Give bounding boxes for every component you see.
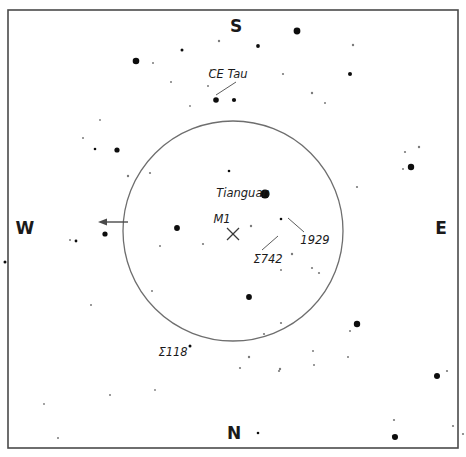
star-marker bbox=[154, 389, 156, 391]
m1-target-marker bbox=[227, 228, 239, 240]
star-marker bbox=[311, 92, 313, 94]
star-marker bbox=[189, 345, 192, 348]
star-marker bbox=[189, 105, 191, 107]
star-marker bbox=[133, 58, 140, 65]
star-marker bbox=[109, 394, 111, 396]
label-ce-tau: CE Tau bbox=[208, 67, 247, 81]
sky-canvas: CE Tau Tianguan M1 Σ742 1929 Σ118 S W E … bbox=[0, 0, 466, 457]
star-marker bbox=[278, 370, 280, 372]
leader-line bbox=[262, 236, 278, 250]
star-marker bbox=[218, 40, 220, 42]
star-marker bbox=[69, 239, 71, 241]
star-marker bbox=[159, 245, 161, 247]
star-marker bbox=[232, 98, 236, 102]
cardinal-label-west: W bbox=[16, 218, 35, 238]
star-marker bbox=[280, 218, 283, 221]
star-marker bbox=[239, 367, 241, 369]
label-sigma-742: Σ742 bbox=[253, 252, 282, 266]
star-marker bbox=[318, 272, 320, 274]
star-marker bbox=[246, 294, 252, 300]
star-marker bbox=[151, 290, 153, 292]
star-marker bbox=[452, 425, 454, 427]
star-marker bbox=[393, 419, 395, 421]
star-marker bbox=[94, 148, 97, 151]
leader-line bbox=[216, 82, 236, 95]
star-marker bbox=[349, 330, 351, 332]
star-chart: CE Tau Tianguan M1 Σ742 1929 Σ118 S W E … bbox=[0, 0, 466, 457]
star-marker bbox=[408, 164, 414, 170]
star-marker bbox=[280, 322, 282, 324]
star-marker bbox=[352, 44, 354, 46]
star-marker bbox=[181, 49, 184, 52]
star-marker bbox=[114, 147, 119, 152]
star-marker bbox=[402, 168, 404, 170]
star-marker bbox=[152, 62, 154, 64]
star-marker bbox=[82, 137, 84, 139]
star-marker bbox=[311, 267, 313, 269]
star-marker bbox=[354, 321, 360, 327]
leader-line bbox=[288, 218, 304, 232]
star-marker bbox=[280, 269, 282, 271]
star-marker bbox=[348, 72, 352, 76]
star-marker bbox=[248, 356, 250, 358]
star-marker bbox=[257, 432, 260, 435]
cardinal-label-south: S bbox=[230, 16, 242, 36]
star-marker bbox=[446, 370, 448, 372]
star-marker bbox=[279, 368, 281, 370]
star-marker bbox=[202, 243, 204, 245]
star-marker bbox=[250, 225, 252, 227]
star-marker bbox=[207, 85, 209, 87]
star-marker bbox=[170, 81, 172, 83]
star-marker bbox=[282, 73, 284, 75]
west-arrow-head bbox=[98, 218, 107, 225]
star-marker bbox=[294, 28, 301, 35]
star-marker bbox=[404, 151, 406, 153]
star-marker bbox=[228, 170, 231, 173]
label-1929: 1929 bbox=[300, 233, 329, 247]
star-marker bbox=[43, 403, 45, 405]
star-marker bbox=[149, 172, 151, 174]
star-marker bbox=[174, 225, 180, 231]
star-marker bbox=[213, 97, 219, 103]
field-of-view-circle bbox=[123, 121, 343, 341]
label-sigma-118: Σ118 bbox=[158, 345, 187, 359]
star-marker bbox=[127, 175, 129, 177]
star-marker bbox=[4, 261, 7, 264]
star-marker bbox=[90, 304, 92, 306]
label-tianguan: Tianguan bbox=[216, 186, 269, 200]
star-marker bbox=[99, 119, 101, 121]
star-marker bbox=[462, 433, 464, 435]
star-marker bbox=[256, 44, 260, 48]
star-marker bbox=[263, 333, 265, 335]
star-marker bbox=[347, 356, 349, 358]
star-marker bbox=[356, 186, 358, 188]
star-marker bbox=[57, 437, 59, 439]
star-marker bbox=[313, 364, 315, 366]
star-marker bbox=[291, 253, 293, 255]
star-marker bbox=[418, 146, 420, 148]
label-m1: M1 bbox=[213, 212, 230, 226]
star-marker bbox=[392, 434, 398, 440]
star-marker bbox=[324, 102, 326, 104]
cardinal-label-north: N bbox=[227, 423, 241, 443]
star-marker bbox=[434, 373, 440, 379]
star-marker bbox=[312, 350, 314, 352]
star-marker bbox=[75, 240, 78, 243]
star-marker bbox=[102, 231, 107, 236]
cardinal-label-east: E bbox=[435, 218, 447, 238]
